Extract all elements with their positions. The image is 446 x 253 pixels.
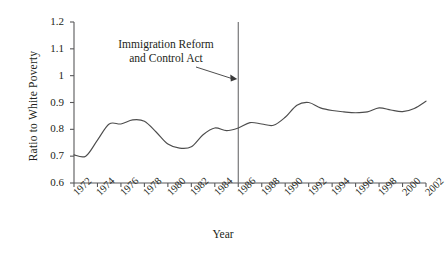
annotation-arrow-head (230, 75, 237, 82)
annotation-line-2: and Control Act (96, 52, 236, 66)
y-tick-label: 0.9 (24, 96, 64, 108)
data-series-line (74, 101, 426, 157)
annotation-arrow-line (196, 67, 233, 79)
y-axis-ticks (70, 22, 74, 183)
y-tick-label: 0.8 (24, 122, 64, 134)
y-tick-label: 0.7 (24, 149, 64, 161)
chart-figure: Immigration Reform and Control Act Ratio… (0, 0, 446, 253)
y-tick-label: 0.6 (24, 176, 64, 188)
x-axis-title: Year (0, 228, 446, 240)
y-tick-label: 1 (24, 69, 64, 81)
annotation-line-1: Immigration Reform (96, 38, 236, 52)
y-tick-label: 1.1 (24, 42, 64, 54)
y-tick-label: 1.2 (24, 15, 64, 27)
annotation-label: Immigration Reform and Control Act (96, 38, 236, 65)
